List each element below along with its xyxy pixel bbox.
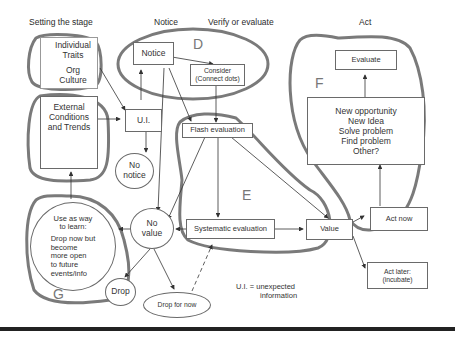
consider-box: Consider (Connect dots) — [190, 64, 245, 86]
no-notice-oval: No notice — [115, 153, 154, 189]
drop-label: Drop — [111, 287, 129, 297]
notice-box: Notice — [133, 42, 174, 65]
act-now-box: Act now — [370, 207, 428, 231]
evaluate-label: Evaluate — [351, 56, 380, 65]
outcome-find-problem: Find problem — [341, 136, 391, 146]
ui-label: U.I. — [137, 116, 150, 126]
drop-for-now-oval: Drop for now — [143, 292, 211, 318]
outcome-solve-problem: Solve problem — [339, 126, 393, 136]
external-conditions-box: External Conditions and Trends — [40, 96, 98, 169]
act-now-label: Act now — [386, 215, 413, 224]
outcome-other: Other? — [353, 146, 379, 156]
systematic-evaluation-label: Systematic evaluation — [194, 225, 267, 234]
act-later-line1: Act later: — [384, 268, 411, 276]
learn-body-5: events/info — [51, 270, 96, 279]
org-culture-label: Org Culture — [56, 66, 90, 86]
region-label-e: E — [242, 187, 251, 203]
region-label-f: F — [315, 75, 324, 91]
drop-oval: Drop — [105, 278, 136, 306]
flash-evaluation-box: Flash evaluation — [182, 123, 253, 138]
no-value-line2: value — [142, 229, 162, 239]
drop-for-now-label: Drop for now — [158, 301, 197, 309]
learn-body: Drop now but become more open to future … — [51, 235, 96, 278]
ui-legend: U.I. = unexpected information — [236, 283, 297, 300]
consider-sub-label: (Connect dots) — [195, 75, 240, 83]
consider-label: Consider — [204, 67, 231, 75]
external-conditions-label: External Conditions and Trends — [41, 103, 97, 132]
outcome-new-opportunity: New opportunity — [335, 106, 396, 116]
learn-line2: to learn: — [59, 223, 86, 232]
dashed-arrow — [192, 245, 212, 291]
no-value-oval: No value — [130, 208, 174, 249]
bottom-rule — [0, 327, 455, 331]
use-to-learn-oval: Use as way to learn: Drop now but become… — [30, 202, 116, 291]
value-label: Value — [320, 225, 339, 234]
systematic-evaluation-box: Systematic evaluation — [186, 219, 275, 239]
region-label-d: D — [193, 36, 203, 52]
act-later-box: Act later: (incubate) — [367, 262, 428, 289]
individual-traits-label: Individual Traits — [52, 41, 94, 61]
ui-box: U.I. — [125, 109, 162, 132]
value-box: Value — [306, 219, 353, 240]
no-notice-line2: notice — [123, 171, 146, 181]
act-later-line2: (incubate) — [382, 276, 412, 284]
outcome-new-idea: New Idea — [348, 116, 384, 126]
notice-label: Notice — [141, 49, 165, 59]
evaluate-box: Evaluate — [335, 50, 397, 70]
ui-legend-line2: information — [236, 292, 297, 301]
flash-evaluation-label: Flash evaluation — [190, 126, 245, 135]
outcomes-box: New opportunity New Idea Solve problem F… — [307, 97, 425, 165]
